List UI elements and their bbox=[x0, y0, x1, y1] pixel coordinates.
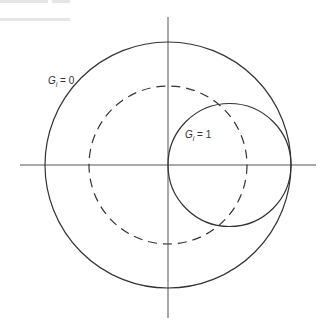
label-g-equals-1: Gi = 1 bbox=[185, 129, 212, 142]
diagram-canvas: Gi = 0 Gi = 1 bbox=[0, 0, 332, 328]
label-g0-value: = 0 bbox=[57, 75, 74, 86]
label-g-equals-0: Gi = 0 bbox=[48, 75, 75, 88]
label-g1-value: = 1 bbox=[194, 129, 211, 140]
